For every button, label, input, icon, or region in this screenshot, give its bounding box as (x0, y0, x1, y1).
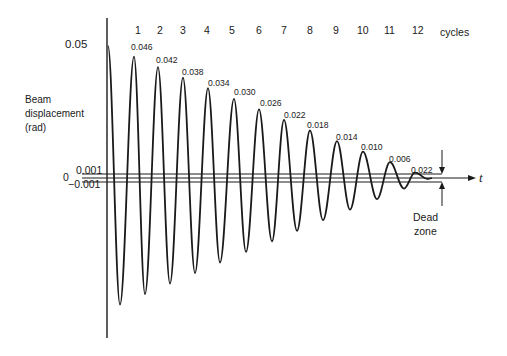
peak-label: 0.018 (307, 121, 329, 130)
cycle-label: 5 (229, 25, 235, 36)
t-axis-arrow-icon (468, 175, 476, 181)
peak-label: 0.030 (234, 88, 256, 97)
peak-label: 0.046 (131, 43, 153, 52)
peak-label: 0.022 (411, 166, 433, 175)
peak-label: 0.042 (156, 56, 178, 65)
arrow-up-icon (439, 182, 445, 189)
peak-label: 0.026 (260, 99, 282, 108)
cycle-label: 10 (357, 25, 369, 36)
y-tick-neg-0.001: −0.001 (68, 179, 100, 190)
arrow-down-icon (439, 167, 445, 174)
cycle-label: 4 (204, 25, 210, 36)
y-tick-0.05: 0.05 (65, 39, 87, 51)
damped-waveform (108, 46, 432, 305)
cycle-label: 8 (307, 25, 313, 36)
cycle-label: 7 (281, 25, 287, 36)
y-label-line: Beam (25, 93, 84, 107)
peak-label: 0.006 (389, 155, 411, 164)
y-label-line: (rad) (25, 121, 84, 135)
cycles-axis-label: cycles (440, 27, 469, 38)
cycle-label: 3 (180, 25, 186, 36)
cycle-label: 12 (412, 25, 424, 36)
peak-label: 0.034 (208, 79, 230, 88)
dead-zone-label-line1: Dead (413, 212, 438, 223)
peak-label: 0.038 (182, 68, 204, 77)
peak-label: 0.014 (336, 133, 358, 142)
t-axis-label: t (479, 171, 483, 184)
cycle-label: 6 (256, 25, 262, 36)
peak-label: 0.022 (284, 111, 306, 120)
dead-zone-label-line2: zone (414, 226, 437, 237)
damped-oscillation-chart: Beam displacement (rad) 0.05 0.001 0 −0.… (0, 0, 507, 356)
cycle-label: 11 (384, 25, 395, 36)
peak-label: 0.010 (361, 143, 383, 152)
cycle-label: 2 (157, 25, 163, 36)
cycle-label: 1 (135, 25, 141, 36)
y-label-line: displacement (25, 107, 84, 121)
y-axis-label: Beam displacement (rad) (25, 93, 84, 135)
cycle-label: 9 (333, 25, 339, 36)
y-tick-0.001: 0.001 (76, 165, 102, 176)
